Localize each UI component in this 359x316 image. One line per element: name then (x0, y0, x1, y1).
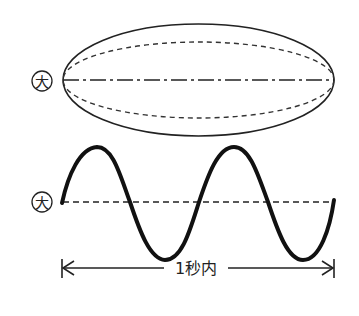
vibration-ellipse (63, 24, 334, 136)
diagram-canvas: 大 大 1秒内 (0, 0, 359, 316)
duration-label: 1秒内 (175, 259, 217, 278)
large-marker-icon: 大 (32, 71, 52, 91)
large-marker-icon: 大 (32, 192, 52, 212)
sine-wave (62, 147, 334, 260)
duration-arrow: 1秒内 (62, 259, 334, 278)
wave-marker-label: 大 (35, 195, 49, 211)
ellipse-marker-label: 大 (35, 74, 49, 90)
